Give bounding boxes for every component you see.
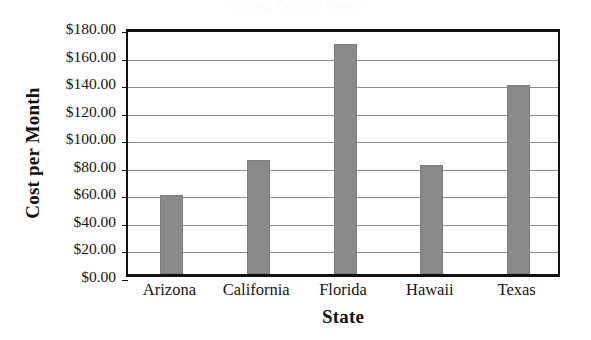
y-tick-mark <box>122 252 128 253</box>
bar <box>160 195 183 274</box>
x-axis-tick-labels: ArizonaCaliforniaFloridaHawaiiTexas <box>126 280 560 304</box>
y-tick-mark <box>122 32 128 33</box>
y-tick-label: $180.00 <box>66 21 116 37</box>
y-tick-mark <box>122 87 128 88</box>
y-tick-label: $80.00 <box>73 159 116 175</box>
x-axis-title: State <box>126 306 560 328</box>
y-tick-label: $20.00 <box>73 242 116 258</box>
y-tick-label: $100.00 <box>66 131 116 147</box>
y-tick-mark <box>122 197 128 198</box>
x-tick-label: Texas <box>497 280 535 300</box>
x-tick-label: Florida <box>319 280 367 300</box>
y-tick-label: $160.00 <box>66 49 116 65</box>
bar <box>334 44 357 274</box>
y-tick-mark <box>122 60 128 61</box>
y-tick-label: $120.00 <box>66 104 116 120</box>
x-tick-label: California <box>223 280 290 300</box>
chart-title-erased: Average Cost per Month <box>0 0 591 13</box>
y-tick-mark <box>122 225 128 226</box>
bar <box>247 160 270 274</box>
y-tick-label: $140.00 <box>66 76 116 92</box>
x-tick-label: Arizona <box>143 280 196 300</box>
bar <box>420 165 443 274</box>
plot-area <box>126 29 560 277</box>
bar <box>507 85 530 274</box>
y-tick-mark <box>122 142 128 143</box>
y-tick-label: $60.00 <box>73 187 116 203</box>
y-tick-label: $0.00 <box>81 269 116 285</box>
y-axis-tick-labels: $180.00$160.00$140.00$120.00$100.00$80.0… <box>38 29 120 277</box>
y-tick-label: $40.00 <box>73 214 116 230</box>
y-tick-mark <box>122 115 128 116</box>
x-tick-label: Hawaii <box>406 280 454 300</box>
chart-screenshot: Average Cost per Month Cost per Month $1… <box>0 0 591 340</box>
y-tick-mark <box>122 170 128 171</box>
